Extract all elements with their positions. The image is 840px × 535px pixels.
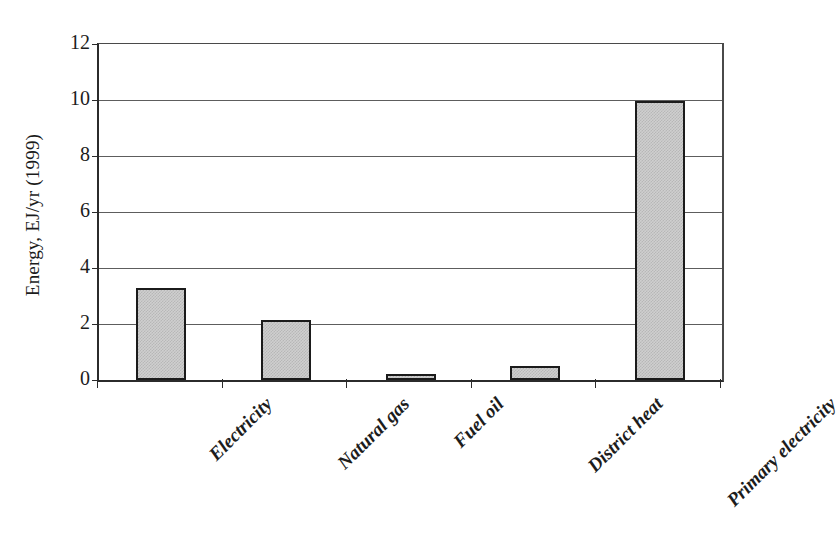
y-axis-tick-mark [92, 44, 99, 45]
x-axis-category-label: Electricity [205, 393, 277, 465]
y-axis-tick-mark [92, 212, 99, 213]
x-axis-category-label: District heat [583, 393, 667, 477]
x-axis-tick-marks [97, 379, 722, 391]
y-axis-tick-label: 10 [20, 88, 90, 108]
y-axis-tick-label: 2 [20, 312, 90, 332]
x-axis-tick-mark [720, 379, 721, 388]
x-axis-category-label: Primary electricity [722, 393, 840, 511]
bar [261, 320, 311, 380]
gridline [99, 324, 722, 325]
x-axis-tick-mark [346, 379, 347, 388]
gridline [99, 100, 722, 101]
x-axis-category-label: Natural gas [333, 393, 414, 474]
y-axis-tick-mark [92, 156, 99, 157]
y-axis-tick-label: 4 [20, 256, 90, 276]
x-axis-tick-mark [471, 379, 472, 388]
y-axis-tick-labels: 024681012 [12, 0, 90, 535]
x-axis-tick-mark [97, 379, 98, 388]
y-axis-tick-mark [92, 100, 99, 101]
bar [510, 366, 560, 380]
bar [136, 288, 186, 380]
gridline [99, 268, 722, 269]
y-axis-tick-mark [92, 268, 99, 269]
gridline [99, 156, 722, 157]
plot-area [97, 43, 724, 382]
y-axis-tick-label: 6 [20, 200, 90, 220]
x-axis-tick-mark [595, 379, 596, 388]
gridline [99, 212, 722, 213]
y-axis-tick-label: 12 [20, 32, 90, 52]
bar [635, 101, 685, 380]
x-axis-tick-mark [222, 379, 223, 388]
y-axis-tick-label: 8 [20, 144, 90, 164]
x-axis-category-label: Fuel oil [449, 393, 508, 452]
y-axis-tick-mark [92, 324, 99, 325]
y-axis-tick-label: 0 [20, 368, 90, 388]
